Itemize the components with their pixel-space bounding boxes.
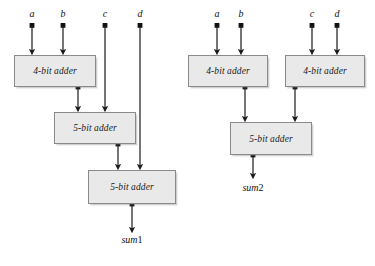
- input-label-d-right: d: [335, 8, 340, 19]
- input-label-a: a: [30, 8, 35, 19]
- adder-box-label: 5-bit adder: [249, 134, 293, 144]
- adder-box-5bit-second[interactable]: 5-bit adder: [88, 170, 176, 204]
- adder-box-label: 5-bit adder: [73, 123, 117, 133]
- output-label-sum1: sum1: [121, 234, 142, 245]
- adder-box-5bit-right[interactable]: 5-bit adder: [230, 122, 312, 155]
- adder-box-4bit-left[interactable]: 4-bit adder: [188, 55, 268, 87]
- adder-box-5bit-first[interactable]: 5-bit adder: [54, 112, 136, 144]
- input-label-a-right: a: [215, 8, 220, 19]
- adder-box-label: 4-bit adder: [206, 66, 250, 76]
- figure-canvas: a b c d 4-bit adder 5-bit adder 5-bit ad…: [0, 0, 375, 266]
- output-label-sum2-index: 2: [259, 182, 264, 193]
- adder-box-label: 4-bit adder: [303, 66, 347, 76]
- adder-box-label: 5-bit adder: [110, 182, 154, 192]
- input-label-c-right: c: [310, 8, 314, 19]
- output-label-sum1-word: sum: [121, 234, 137, 245]
- input-label-b-right: b: [239, 8, 244, 19]
- adder-box-4bit[interactable]: 4-bit adder: [14, 55, 96, 87]
- output-label-sum2-word: sum: [242, 182, 258, 193]
- input-label-b: b: [61, 8, 66, 19]
- output-label-sum2: sum2: [242, 182, 263, 193]
- adder-box-label: 4-bit adder: [33, 66, 77, 76]
- adder-box-4bit-right[interactable]: 4-bit adder: [285, 55, 365, 87]
- input-label-d: d: [138, 8, 143, 19]
- input-label-c: c: [103, 8, 107, 19]
- output-label-sum1-index: 1: [138, 234, 143, 245]
